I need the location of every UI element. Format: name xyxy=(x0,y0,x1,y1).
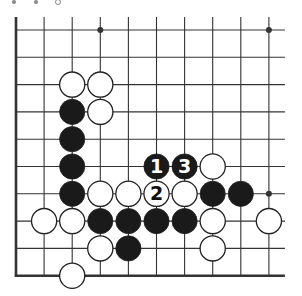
white-stone xyxy=(88,72,113,97)
white-stone xyxy=(88,99,113,124)
black-stone xyxy=(60,181,85,206)
black-stone xyxy=(228,181,253,206)
black-stone xyxy=(116,236,141,261)
move-number-label: 3 xyxy=(178,155,191,177)
white-stone xyxy=(256,209,281,234)
star-point xyxy=(266,191,272,197)
white-stone xyxy=(200,209,225,234)
white-stone xyxy=(60,72,85,97)
white-stone xyxy=(200,236,225,261)
black-stone xyxy=(60,154,85,179)
star-point xyxy=(266,27,272,33)
white-stone xyxy=(88,236,113,261)
black-stone: 1 xyxy=(144,154,169,179)
black-stone: 3 xyxy=(172,154,197,179)
white-stone xyxy=(88,181,113,206)
white-stone xyxy=(31,209,56,234)
white-stone xyxy=(172,181,197,206)
black-stone xyxy=(60,127,85,152)
white-stone xyxy=(60,263,85,288)
black-stone xyxy=(172,209,197,234)
white-stone xyxy=(200,154,225,179)
go-board: 132 xyxy=(0,0,302,296)
top-text-fragments xyxy=(12,0,61,5)
black-stone xyxy=(60,99,85,124)
board-grid xyxy=(15,17,285,276)
black-stone xyxy=(200,181,225,206)
black-stone xyxy=(144,209,169,234)
black-stone xyxy=(88,209,113,234)
move-number-label: 2 xyxy=(150,182,163,204)
white-stone: 2 xyxy=(144,181,169,206)
white-stone xyxy=(60,209,85,234)
move-number-label: 1 xyxy=(150,155,163,177)
black-stone xyxy=(116,209,141,234)
star-point xyxy=(97,27,103,33)
white-stone xyxy=(116,181,141,206)
